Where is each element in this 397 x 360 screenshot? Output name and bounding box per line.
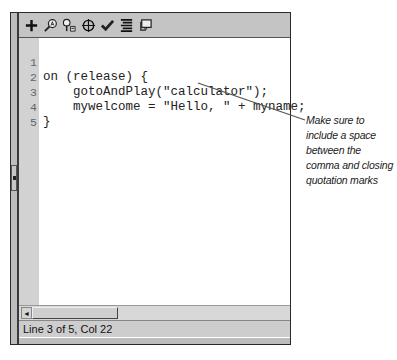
actions-panel: 1 on (release) { 2 gotoAndPlay("calculat… [10, 12, 291, 345]
add-statement-icon[interactable] [23, 17, 39, 33]
replace-icon[interactable] [61, 17, 77, 33]
collapse-handle[interactable] [11, 165, 17, 191]
scroll-left-button[interactable]: ◄ [21, 307, 32, 319]
check-syntax-icon[interactable] [99, 17, 115, 33]
code-line-2[interactable]: 2 gotoAndPlay("calculator"); [19, 55, 64, 70]
show-code-hint-icon[interactable] [137, 17, 153, 33]
script-editor[interactable]: 1 on (release) { 2 gotoAndPlay("calculat… [19, 38, 290, 306]
code-text: gotoAndPlay("calculator"); [43, 85, 268, 100]
status-bar: Line 3 of 5, Col 22 [19, 320, 290, 338]
code-line-1[interactable]: 1 on (release) { [19, 40, 64, 55]
horizontal-scrollbar[interactable]: ◄ [19, 305, 290, 321]
auto-format-icon[interactable] [118, 17, 134, 33]
scroll-thumb[interactable] [32, 307, 118, 319]
code-line-4[interactable]: 4 } [19, 85, 64, 100]
callout-annotation: Make sure to include a space between the… [306, 113, 396, 188]
status-bar-footer [19, 337, 290, 344]
code-line-3[interactable]: 3 mywelcome = "Hello, " + myname; [19, 70, 64, 85]
toolbar [19, 13, 290, 38]
line-number: 5 [19, 115, 37, 130]
insert-target-path-icon[interactable] [80, 17, 96, 33]
code-line-5[interactable]: 5 [19, 100, 64, 115]
collapse-arrow-icon [13, 176, 16, 180]
code-text: mywelcome = "Hello, " + myname; [43, 100, 306, 115]
find-icon[interactable] [42, 17, 58, 33]
